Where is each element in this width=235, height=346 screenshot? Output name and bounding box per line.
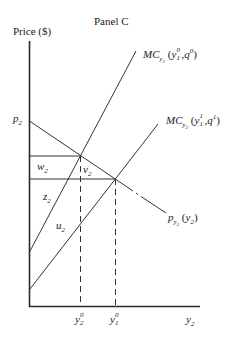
mc-new-curve bbox=[30, 124, 158, 289]
area-z2-label: z2 bbox=[43, 191, 51, 205]
area-v2-label: v2 bbox=[83, 164, 91, 178]
x-tick-y1-0: y01 bbox=[110, 314, 120, 325]
demand-label: py2 (y2) bbox=[168, 212, 198, 227]
mc-new-label: MCy2 (y11,q1) bbox=[166, 114, 220, 130]
demand-curve-tail bbox=[141, 197, 166, 214]
price-p2-label: p2 bbox=[13, 113, 22, 127]
area-w2-label: w2 bbox=[37, 161, 48, 175]
mc-initial-curve bbox=[30, 51, 137, 252]
y-axis-label: Price ($) bbox=[13, 26, 51, 37]
x-axis-label: y2 bbox=[186, 314, 194, 328]
demand-curve-dash bbox=[136, 193, 138, 195]
panel-c-diagram bbox=[0, 0, 235, 346]
x-tick-y2-0: y02 bbox=[75, 314, 85, 325]
mc-initial-label: MCy2 (y01,q0) bbox=[143, 48, 197, 64]
area-u2-label: u2 bbox=[56, 220, 65, 234]
panel-title: Panel C bbox=[94, 16, 129, 27]
